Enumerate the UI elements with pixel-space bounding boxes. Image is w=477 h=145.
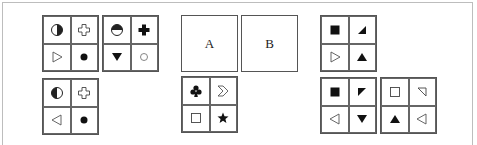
star-filled-icon (216, 111, 230, 125)
cell (349, 16, 377, 44)
cell (103, 16, 131, 44)
triangle-up-filled-icon (355, 50, 369, 64)
cell (43, 44, 71, 72)
cell (131, 16, 159, 44)
cell (409, 106, 437, 134)
option-b-label: B (265, 36, 274, 52)
option-box-b[interactable]: B (241, 15, 298, 72)
grid-5 (320, 15, 377, 72)
cell (321, 44, 349, 72)
cell (321, 78, 349, 106)
cell (43, 16, 71, 44)
cell (43, 79, 71, 107)
circle-half-left-filled-icon (50, 86, 64, 100)
cross-outline-icon (77, 86, 91, 100)
triangle-right-outline-icon (328, 50, 342, 64)
option-box-a[interactable]: A (181, 15, 238, 72)
triangle-up-filled-icon (388, 112, 402, 126)
cell (381, 78, 409, 106)
option-a-label: A (205, 36, 214, 52)
circle-half-right-filled-icon (50, 23, 64, 37)
cell (71, 44, 99, 72)
grid-1 (42, 15, 99, 72)
cell (182, 105, 210, 133)
cell (131, 44, 159, 72)
cell (349, 106, 377, 134)
corner-triangle-top-right-outline-icon (415, 85, 429, 99)
square-outline-icon (189, 111, 203, 125)
club-filled-icon (189, 84, 203, 98)
cell (43, 107, 71, 135)
triangle-down-filled-icon (355, 112, 369, 126)
square-outline-icon (388, 85, 402, 99)
square-filled-icon (328, 85, 342, 99)
cell (321, 16, 349, 44)
triangle-right-outline-icon (50, 50, 64, 64)
square-filled-icon (328, 23, 342, 37)
cell (210, 105, 238, 133)
grid-4 (181, 76, 238, 133)
cross-outline-icon (77, 23, 91, 37)
circle-half-top-filled-icon (110, 23, 124, 37)
cell (409, 78, 437, 106)
grid-7 (380, 77, 437, 134)
triangle-left-outline-icon (415, 112, 429, 126)
dot-filled-icon (77, 50, 91, 64)
cell (349, 78, 377, 106)
corner-triangle-bottom-right-filled-icon (355, 23, 369, 37)
circle-small-outline-icon (137, 50, 151, 64)
triangle-left-outline-icon (50, 113, 64, 127)
cell (381, 106, 409, 134)
cell (71, 79, 99, 107)
cell (103, 44, 131, 72)
cell (182, 77, 210, 105)
grid-2 (102, 15, 159, 72)
cross-filled-icon (137, 23, 151, 37)
triangle-down-filled-icon (110, 50, 124, 64)
cell (349, 44, 377, 72)
chevron-right-outline-icon (216, 84, 230, 98)
cell (210, 77, 238, 105)
cell (71, 107, 99, 135)
dot-filled-icon (77, 113, 91, 127)
triangle-left-outline-icon (328, 112, 342, 126)
grid-6 (320, 77, 377, 134)
cell (321, 106, 349, 134)
grid-3 (42, 78, 99, 135)
corner-triangle-top-left-filled-icon (355, 85, 369, 99)
cell (71, 16, 99, 44)
